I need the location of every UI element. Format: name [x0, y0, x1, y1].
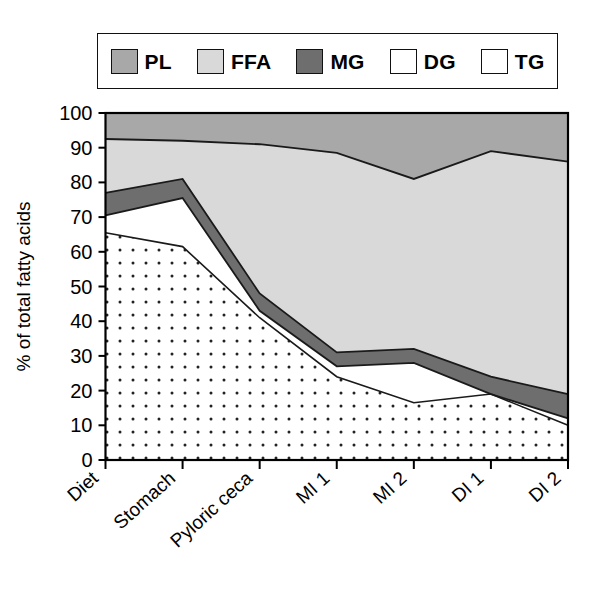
x-tick-label: Diet	[63, 467, 103, 506]
y-tick-label: 80	[70, 171, 92, 193]
y-tick-labels: 0102030405060708090100	[59, 102, 92, 471]
y-tick-label: 100	[59, 102, 92, 124]
stacked-area-chart: 0102030405060708090100 DietStomachPylori…	[0, 0, 597, 596]
plot-area-container: 0102030405060708090100 DietStomachPylori…	[0, 0, 597, 596]
x-tick-label: DI 1	[448, 467, 488, 506]
x-tick-label: DI 2	[525, 467, 565, 506]
y-axis-title-group: % of total fatty acids	[13, 201, 34, 371]
x-tick-label: MI 1	[292, 467, 334, 507]
y-tick-label: 60	[70, 241, 92, 263]
y-tick-label: 20	[70, 380, 92, 402]
area-series-group	[106, 113, 569, 460]
y-tick-label: 70	[70, 206, 92, 228]
chart-figure: PL FFA MG DG TG	[0, 0, 597, 596]
x-tick-label: Pyloric ceca	[166, 467, 256, 551]
y-tick-label: 10	[70, 414, 92, 436]
y-tick-label: 50	[70, 276, 92, 298]
x-tick-label: MI 2	[369, 467, 411, 507]
y-tick-label: 90	[70, 137, 92, 159]
y-tick-label: 40	[70, 310, 92, 332]
x-tick-label: Stomach	[109, 467, 179, 533]
y-tick-label: 30	[70, 345, 92, 367]
x-tick-labels: DietStomachPyloric cecaMI 1MI 2DI 1DI 2	[63, 467, 565, 552]
y-axis-title: % of total fatty acids	[13, 201, 34, 371]
